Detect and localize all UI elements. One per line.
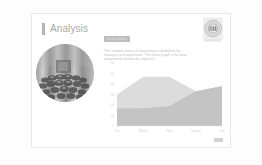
svg-text:10: 10	[111, 114, 115, 118]
svg-text:May: May	[167, 129, 173, 133]
svg-text:50: 50	[111, 72, 115, 76]
circular-photo-pinecones-icon	[36, 44, 94, 102]
description-badge: Description	[104, 36, 130, 42]
circular-photo-frame	[36, 44, 94, 102]
svg-text:30: 30	[111, 93, 115, 97]
description-and-chart-panel: Description This analysis covers all dep…	[104, 28, 226, 144]
presentation-slide-card[interactable]: Analysis	[31, 13, 231, 148]
svg-text:60: 60	[111, 61, 115, 65]
svg-text:March: March	[139, 129, 148, 133]
page-number-marker	[214, 138, 223, 142]
svg-text:Jan: Jan	[115, 129, 120, 133]
svg-text:20: 20	[111, 103, 115, 107]
slide-thumbnail-stage: Analysis	[0, 0, 262, 165]
svg-text:July: July	[219, 129, 225, 133]
svg-text:40: 40	[111, 82, 115, 86]
page-title: Analysis	[50, 23, 88, 35]
area-chart[interactable]: 0102030405060JanMarchMayOctoberJuly	[104, 57, 226, 139]
title-accent-bar	[42, 23, 45, 35]
page-title-row: Analysis	[42, 23, 88, 35]
svg-text:0: 0	[112, 124, 114, 128]
svg-text:October: October	[190, 129, 201, 133]
